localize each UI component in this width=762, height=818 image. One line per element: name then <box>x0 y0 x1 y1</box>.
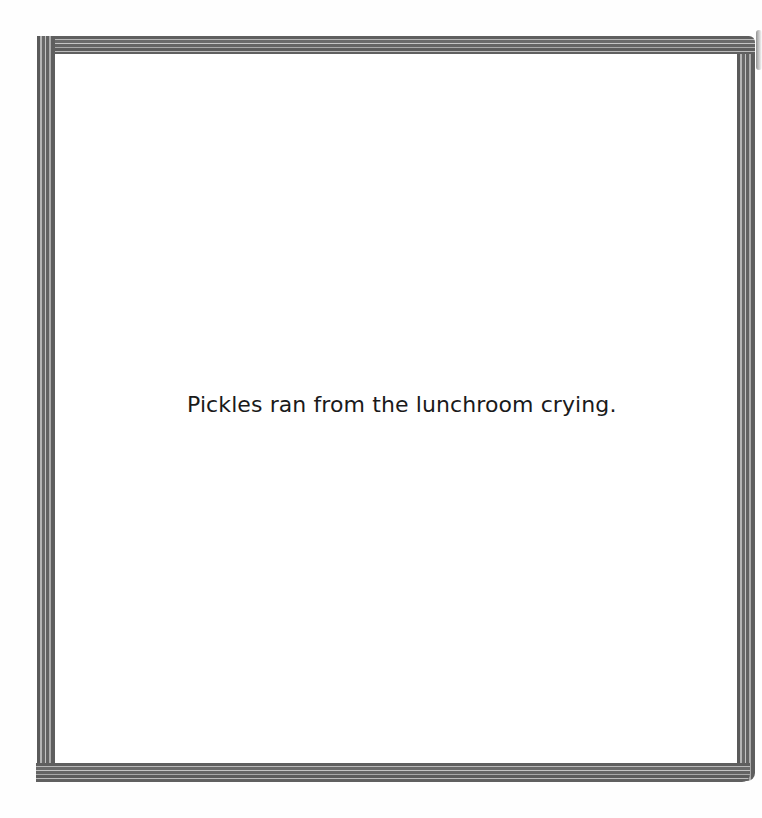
book-page: Pickles ran from the lunchroom crying. <box>0 0 762 818</box>
story-text: Pickles ran from the lunchroom crying. <box>187 388 617 422</box>
frame-bottom-border <box>36 763 750 782</box>
frame-top-border <box>37 36 755 54</box>
frame-corner-shadow <box>756 30 762 70</box>
frame-right-border <box>737 54 755 781</box>
frame-left-border <box>37 36 55 782</box>
